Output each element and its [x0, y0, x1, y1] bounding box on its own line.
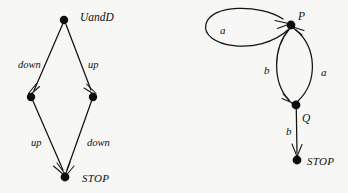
node-left-middle[interactable]	[27, 93, 35, 101]
edge-line	[296, 110, 297, 154]
label-b-q-to-stop: b	[286, 125, 292, 137]
label-b-p-to-q: b	[264, 64, 270, 76]
edge-q-to-p	[292, 27, 313, 102]
label-up-lower: up	[31, 137, 42, 148]
right-diagram: P Q STOP a b a b	[206, 8, 335, 167]
label-p: P	[297, 10, 305, 22]
edge-line	[33, 101, 63, 170]
edge-line	[67, 101, 92, 170]
node-uandd[interactable]	[60, 16, 68, 24]
node-p[interactable]	[287, 21, 296, 30]
arrowhead-icon	[275, 21, 289, 29]
label-stop-left: STOP	[82, 172, 109, 184]
label-uandd: UandD	[80, 11, 115, 23]
node-stop-left[interactable]	[61, 173, 70, 182]
edge-q-to-stop	[292, 110, 302, 157]
arrowhead-icon	[84, 84, 96, 95]
edge-p-self-loop	[206, 8, 289, 46]
label-a-self-loop: a	[220, 24, 226, 36]
label-a-q-to-p: a	[321, 66, 327, 78]
label-q: Q	[302, 112, 311, 124]
label-down-upper: down	[18, 59, 41, 70]
node-stop-right[interactable]	[293, 156, 302, 165]
edge-line	[66, 25, 91, 91]
node-q[interactable]	[292, 101, 301, 110]
edge-p-to-q	[277, 30, 294, 105]
edge-curve	[296, 30, 312, 101]
node-right-middle[interactable]	[89, 93, 97, 101]
edge-line	[34, 25, 63, 91]
edge-curve	[206, 8, 289, 46]
label-up-upper: up	[88, 59, 99, 70]
edge-curve	[277, 30, 289, 101]
label-down-lower: down	[87, 137, 110, 148]
left-diagram: UandD down up up down STOP	[18, 11, 115, 184]
transition-diagrams-figure: UandD down up up down STOP	[0, 0, 348, 193]
label-stop-right: STOP	[307, 155, 334, 167]
